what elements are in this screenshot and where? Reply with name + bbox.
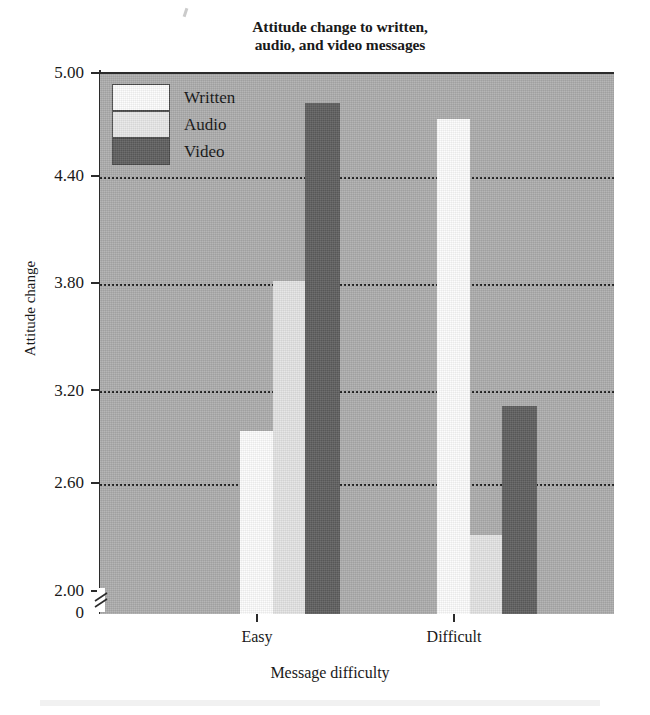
bar-difficult-audio xyxy=(470,535,502,614)
legend-item-video: Video xyxy=(112,138,235,165)
x-tick-label-difficult: Difficult xyxy=(384,628,524,646)
chart-title-line-1: Attitude change to written, xyxy=(190,18,490,36)
legend-swatch-written-icon xyxy=(112,84,170,111)
legend-item-audio: Audio xyxy=(112,111,235,138)
gridline-3-80 xyxy=(100,284,614,286)
bar-easy-audio xyxy=(273,281,305,614)
bar-difficult-written xyxy=(437,119,470,614)
legend-label-audio: Audio xyxy=(184,115,227,135)
y-tick-label-2-60: 2.60 xyxy=(22,474,84,491)
chart-legend: Written Audio Video xyxy=(112,84,235,165)
figure: Attitude change to written, audio, and v… xyxy=(0,0,650,715)
chart-title: Attitude change to written, audio, and v… xyxy=(190,18,490,55)
x-tick-difficult xyxy=(453,613,455,622)
y-tick-4-40 xyxy=(91,175,100,177)
y-axis-break-icon xyxy=(92,588,110,612)
gridline-4-40 xyxy=(100,177,614,179)
x-tick-label-easy: Easy xyxy=(187,628,327,646)
chart-title-line-2: audio, and video messages xyxy=(190,36,490,54)
legend-swatch-audio-icon xyxy=(112,111,170,138)
y-tick-label-5-00: 5.00 xyxy=(22,64,84,81)
scan-artifact xyxy=(183,8,189,17)
legend-label-video: Video xyxy=(184,142,225,162)
y-axis-title: Attitude change xyxy=(22,209,39,409)
y-axis-zero-label: 0 xyxy=(22,604,84,621)
y-tick-label-2-00: 2.00 xyxy=(22,582,84,599)
legend-label-written: Written xyxy=(184,88,235,108)
y-tick-label-3-20: 3.20 xyxy=(22,382,84,399)
y-tick-label-4-40: 4.40 xyxy=(22,167,84,184)
bar-easy-written xyxy=(240,431,273,614)
y-tick-5-00 xyxy=(91,72,100,74)
gridline-3-20 xyxy=(100,391,614,393)
x-axis-title: Message difficulty xyxy=(180,664,480,682)
y-tick-label-3-80: 3.80 xyxy=(22,274,84,291)
y-tick-3-80 xyxy=(91,282,100,284)
scan-smudge xyxy=(40,700,600,706)
bar-easy-video xyxy=(305,103,340,614)
y-tick-2-60 xyxy=(91,482,100,484)
plot-area: Written Audio Video xyxy=(100,72,614,614)
bar-difficult-video xyxy=(502,406,537,615)
x-tick-easy xyxy=(256,613,258,622)
legend-item-written: Written xyxy=(112,84,235,111)
y-tick-3-20 xyxy=(91,389,100,391)
legend-swatch-video-icon xyxy=(112,138,170,165)
